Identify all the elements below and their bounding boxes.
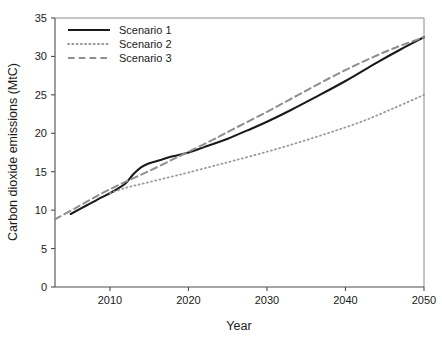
x-axis-title: Year: [226, 319, 251, 333]
legend-label-3: Scenario 3: [119, 52, 172, 64]
x-tick-label: 2020: [176, 294, 200, 306]
legend-label-2: Scenario 2: [119, 38, 172, 50]
y-tick-label: 15: [35, 166, 47, 178]
y-tick-label: 10: [35, 204, 47, 216]
legend-label-1: Scenario 1: [119, 24, 172, 36]
x-tick-label: 2040: [333, 294, 357, 306]
y-tick-label: 25: [35, 89, 47, 101]
y-tick-label: 0: [41, 281, 47, 293]
chart-figure: 05101520253035 20102020203020402050 Scen…: [0, 0, 442, 338]
line-chart: 05101520253035 20102020203020402050 Scen…: [0, 0, 442, 338]
y-tick-label: 35: [35, 12, 47, 24]
x-tick-label: 2010: [98, 294, 122, 306]
x-tick-label: 2050: [412, 294, 436, 306]
y-tick-label: 20: [35, 127, 47, 139]
y-tick-label: 30: [35, 50, 47, 62]
y-axis-title: Carbon dioxide emissions (MtC): [6, 63, 20, 241]
y-tick-label: 5: [41, 243, 47, 255]
x-tick-label: 2030: [255, 294, 279, 306]
